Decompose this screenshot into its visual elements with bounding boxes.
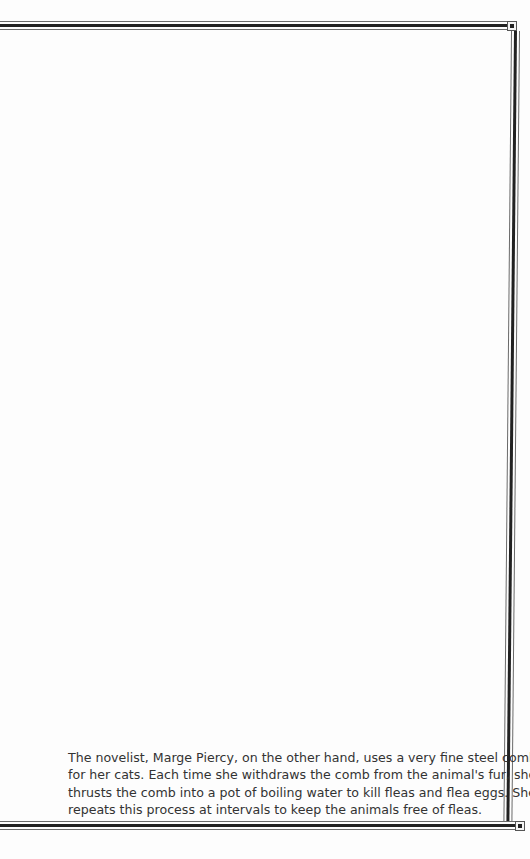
top-right-corner-ornament-icon xyxy=(507,21,517,31)
paragraph-line: repeats this process at intervals to kee… xyxy=(68,801,496,818)
paragraph-line: thrusts the comb into a pot of boiling w… xyxy=(68,784,496,801)
top-border-rule xyxy=(0,21,507,30)
document-page: The novelist, Marge Piercy, on the other… xyxy=(0,0,530,859)
bottom-border-rule xyxy=(0,821,515,830)
right-border-rule xyxy=(503,31,520,821)
paragraph-line: for her cats. Each time she withdraws th… xyxy=(68,766,496,783)
paragraph-line: The novelist, Marge Piercy, on the other… xyxy=(68,749,496,766)
body-paragraph: The novelist, Marge Piercy, on the other… xyxy=(68,749,496,819)
bottom-right-corner-ornament-icon xyxy=(515,821,525,831)
